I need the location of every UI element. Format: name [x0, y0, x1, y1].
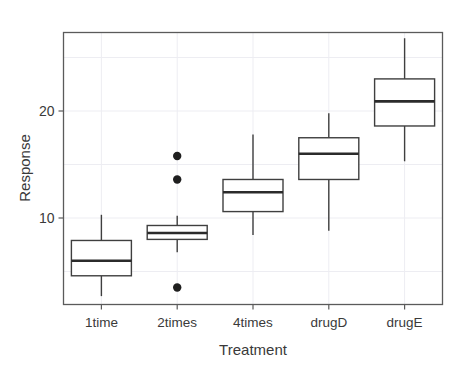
box-iqr-rect	[299, 138, 359, 180]
x-tick-label: drugD	[310, 315, 347, 330]
x-tick-label: 1time	[85, 315, 118, 330]
outlier-point	[173, 283, 181, 291]
x-tick-label: drugE	[387, 315, 423, 330]
box-iqr-rect	[71, 240, 131, 275]
boxplot-svg: 1020 1time2times4timesdrugDdrugE Respons…	[0, 0, 467, 367]
outlier-point	[173, 175, 181, 183]
box-iqr-rect	[223, 179, 283, 211]
boxplot-figure: 1020 1time2times4timesdrugDdrugE Respons…	[0, 0, 467, 367]
y-tick-label: 20	[39, 103, 55, 119]
y-axis-ticks	[59, 111, 64, 218]
x-tick-label: 2times	[157, 315, 197, 330]
box-plot-group	[299, 113, 359, 231]
y-tick-labels: 1020	[39, 103, 55, 226]
outlier-point	[173, 152, 181, 160]
y-tick-label: 10	[39, 210, 55, 226]
y-axis-title: Response	[16, 134, 33, 202]
x-tick-labels: 1time2times4timesdrugDdrugE	[85, 315, 423, 330]
box-plot-group	[223, 135, 283, 236]
box-plot-group	[375, 38, 435, 161]
x-axis-ticks	[101, 305, 404, 310]
x-axis-title: Treatment	[219, 341, 288, 358]
x-tick-label: 4times	[233, 315, 273, 330]
box-plot-group	[71, 215, 131, 296]
